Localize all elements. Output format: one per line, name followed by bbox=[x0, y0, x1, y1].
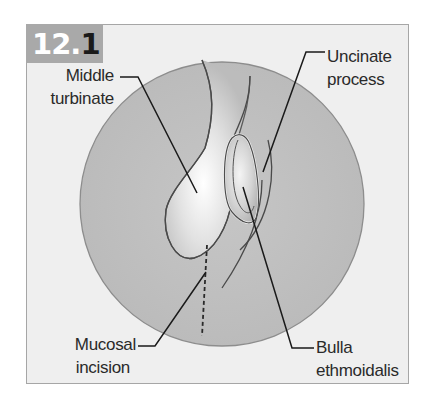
label-line: turbinate bbox=[30, 87, 114, 110]
label-line: Bulla bbox=[316, 336, 399, 359]
label-line: ethmoidalis bbox=[316, 359, 399, 382]
label-line: incision bbox=[40, 356, 136, 379]
figure-number-prefix: 12. bbox=[32, 27, 80, 61]
label-line: process bbox=[327, 68, 392, 91]
figure-number-badge: 12.1 bbox=[26, 24, 103, 63]
label-line: Middle bbox=[30, 64, 114, 87]
label-bulla-ethmoidalis: Bulla ethmoidalis bbox=[316, 336, 399, 382]
label-uncinate-process: Uncinate process bbox=[327, 45, 392, 91]
label-line: Uncinate bbox=[327, 45, 392, 68]
figure-number-suffix: 1 bbox=[80, 27, 99, 61]
label-middle-turbinate: Middle turbinate bbox=[30, 64, 114, 110]
label-line: Mucosal bbox=[40, 333, 136, 356]
label-mucosal-incision: Mucosal incision bbox=[40, 333, 136, 379]
